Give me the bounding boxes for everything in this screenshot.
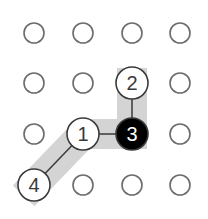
node-1: 1 bbox=[67, 118, 99, 150]
empty-grid-dot bbox=[73, 73, 93, 93]
node-2: 2 bbox=[116, 67, 148, 99]
node-label: 2 bbox=[126, 72, 137, 94]
grid-path-diagram: 1234 bbox=[0, 0, 208, 219]
empty-grid-dot bbox=[24, 73, 44, 93]
empty-grid-dot bbox=[24, 23, 44, 43]
empty-grid-dot bbox=[170, 175, 190, 195]
empty-grid-dot bbox=[122, 23, 142, 43]
diagram-canvas: 1234 bbox=[0, 0, 208, 219]
empty-grid-dot bbox=[73, 175, 93, 195]
empty-grid-dot bbox=[122, 175, 142, 195]
node-label: 3 bbox=[126, 123, 137, 145]
node-label: 4 bbox=[28, 174, 39, 196]
empty-grid-dot bbox=[24, 124, 44, 144]
empty-grid-dot bbox=[170, 73, 190, 93]
node-4: 4 bbox=[18, 169, 50, 201]
node-3: 3 bbox=[116, 118, 148, 150]
node-label: 1 bbox=[77, 123, 88, 145]
empty-grid-dot bbox=[170, 23, 190, 43]
empty-grid-dot bbox=[73, 23, 93, 43]
empty-grid-dot bbox=[170, 124, 190, 144]
